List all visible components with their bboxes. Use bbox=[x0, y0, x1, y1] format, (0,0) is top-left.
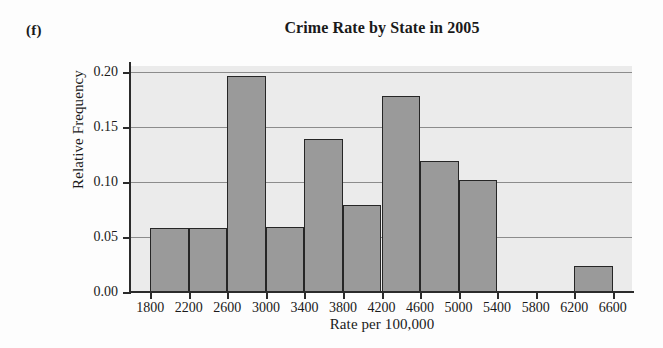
y-tick-mark bbox=[123, 72, 131, 74]
histogram-bar bbox=[227, 76, 266, 292]
x-tick-label: 4200 bbox=[360, 300, 404, 315]
y-tick-mark bbox=[123, 292, 131, 294]
histogram-bar bbox=[266, 227, 305, 292]
x-tick-label: 2200 bbox=[167, 300, 211, 315]
y-tick-label: 0.15 bbox=[72, 120, 118, 134]
part-label: (f) bbox=[26, 22, 42, 39]
y-tick-label: 0.05 bbox=[72, 230, 118, 244]
x-axis-title: Rate per 100,000 bbox=[131, 316, 633, 333]
x-tick-mark bbox=[382, 292, 384, 299]
x-tick-mark bbox=[227, 292, 229, 299]
histogram-bar bbox=[304, 139, 343, 292]
histogram-bar bbox=[189, 228, 228, 292]
y-tick-label: 0.00 bbox=[72, 285, 118, 299]
chart-title: Crime Rate by State in 2005 bbox=[131, 19, 633, 37]
x-tick-mark bbox=[150, 292, 152, 299]
x-tick-label: 2600 bbox=[205, 300, 249, 315]
x-tick-label: 6200 bbox=[552, 300, 596, 315]
histogram-figure: (f) Crime Rate by State in 2005 Relative… bbox=[0, 0, 663, 348]
x-tick-label: 6600 bbox=[591, 300, 635, 315]
y-tick-label: 0.20 bbox=[72, 65, 118, 79]
x-tick-mark bbox=[497, 292, 499, 299]
x-tick-mark bbox=[574, 292, 576, 299]
x-tick-mark bbox=[343, 292, 345, 299]
x-tick-mark bbox=[536, 292, 538, 299]
gridline bbox=[131, 72, 632, 73]
x-tick-mark bbox=[420, 292, 422, 299]
y-tick-mark bbox=[123, 182, 131, 184]
histogram-bar bbox=[150, 228, 189, 292]
x-tick-mark bbox=[304, 292, 306, 299]
x-tick-label: 5000 bbox=[437, 300, 481, 315]
x-tick-label: 1800 bbox=[128, 300, 172, 315]
x-tick-label: 5800 bbox=[514, 300, 558, 315]
x-tick-label: 4600 bbox=[398, 300, 442, 315]
x-tick-label: 5400 bbox=[475, 300, 519, 315]
histogram-bar bbox=[343, 205, 382, 292]
y-tick-label: 0.10 bbox=[72, 175, 118, 189]
x-tick-mark bbox=[266, 292, 268, 299]
y-tick-mark bbox=[123, 127, 131, 129]
x-tick-label: 3000 bbox=[244, 300, 288, 315]
x-tick-mark bbox=[613, 292, 615, 299]
histogram-bar bbox=[420, 161, 459, 292]
x-tick-label: 3400 bbox=[282, 300, 326, 315]
x-tick-mark bbox=[459, 292, 461, 299]
y-tick-mark bbox=[123, 237, 131, 239]
x-tick-mark bbox=[189, 292, 191, 299]
plot-area bbox=[131, 66, 632, 292]
histogram-bar bbox=[382, 96, 421, 292]
histogram-bar bbox=[574, 266, 613, 292]
y-axis-line bbox=[129, 62, 131, 294]
x-tick-label: 3800 bbox=[321, 300, 365, 315]
histogram-bar bbox=[459, 180, 498, 292]
